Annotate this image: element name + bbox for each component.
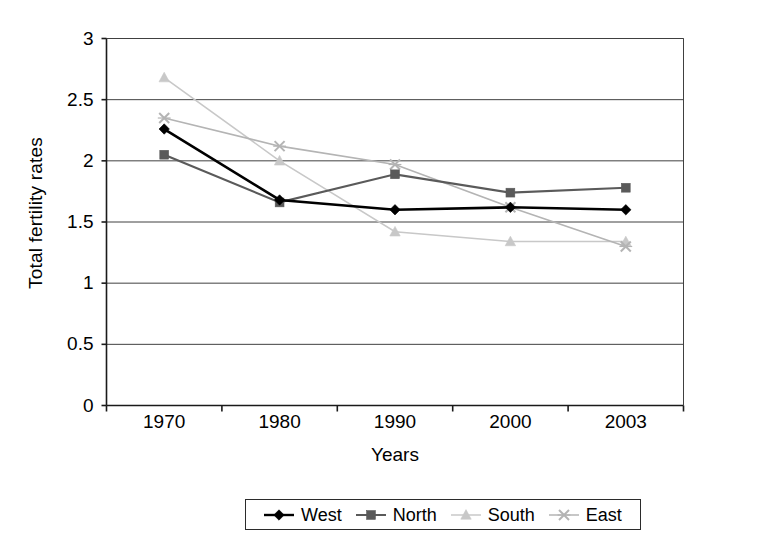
data-point-square-marker [366,510,375,519]
legend-label: North [393,506,437,524]
series-line [164,129,626,210]
series-west [159,124,631,215]
data-point-diamond-marker [390,205,400,215]
data-point-square-marker [160,150,169,159]
legend-label: West [301,506,342,524]
data-point-square-marker [621,183,630,192]
data-point-triangle-marker [274,155,284,165]
legend-entry-west: West [264,506,342,524]
legend-marker-cross-icon [549,508,579,522]
legend-label: East [586,506,622,524]
data-point-triangle-marker [159,72,169,82]
legend-marker-square-icon [356,508,386,522]
data-point-diamond-marker [621,205,631,215]
data-point-square-marker [391,170,400,179]
data-point-cross-marker [158,113,171,123]
legend-label: South [488,506,535,524]
series-south [159,72,631,246]
legend-marker-triangle-icon [451,508,481,522]
data-point-triangle-marker [390,226,400,236]
legend-entry-south: South [451,506,535,524]
series-line [164,78,626,242]
gridlines [107,39,684,345]
data-series-layer [158,72,632,251]
fertility-rates-line-chart: Total fertility rates Years 00.511.522.5… [0,0,765,553]
legend-marker-diamond-icon [264,508,294,522]
legend-entry-east: East [549,506,622,524]
data-point-diamond-marker [274,509,284,519]
data-point-cross-marker [557,510,570,520]
data-point-cross-marker [273,141,286,151]
legend: WestNorthSouthEast [245,499,641,530]
plot-area [0,0,765,553]
data-point-square-marker [506,188,515,197]
series-north [160,150,630,207]
legend-entry-north: North [356,506,437,524]
